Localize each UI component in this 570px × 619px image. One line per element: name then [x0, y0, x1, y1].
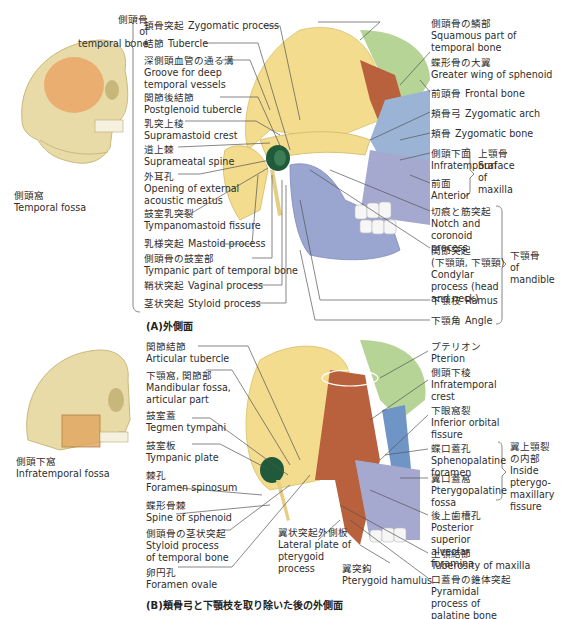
- group-en1: Inside: [510, 465, 554, 477]
- label-ramus: 下顎枝Ramus: [431, 295, 498, 307]
- group-jp1: 翼上顎裂: [510, 441, 554, 453]
- label-en: Zygomatic arch: [465, 108, 540, 119]
- label-jp: 蝶口蓋孔: [431, 443, 501, 455]
- label-en: Frontal bone: [465, 88, 525, 99]
- label-en: Mandibular fossa, articular part: [146, 382, 236, 406]
- label-jp: 関節結節: [146, 341, 229, 353]
- label-en: Postglenoid tubercle: [144, 104, 242, 116]
- label-jp: 蝶形骨の大翼: [431, 57, 552, 69]
- label-en: Tympanic plate: [146, 452, 219, 464]
- label-jp: 側頭骨の鱗部: [431, 18, 541, 30]
- label-en: Zygomatic process: [188, 20, 279, 31]
- label-jp: 乳様突起: [144, 238, 184, 249]
- label-jp: 道上棘: [144, 144, 234, 156]
- label-tympanic-plate: 鼓室板Tympanic plate: [146, 440, 219, 464]
- label-en: Spine of sphenoid: [146, 512, 232, 524]
- label-jp: 下顎枝: [431, 295, 461, 306]
- label-jp: 頬骨突起: [144, 20, 184, 31]
- label-jp: 翼口蓋窩: [431, 473, 501, 485]
- label-en: Greater wing of sphenoid: [431, 69, 552, 81]
- label-zygomatic-arch: 頬骨弓Zygomatic arch: [431, 108, 540, 120]
- skull-thumbnail-b: [27, 350, 130, 450]
- label-jp: 関節突起: [431, 245, 506, 257]
- label-jp2: (下顎頭, 下顎頸): [431, 257, 506, 269]
- label-tympanic-part: 側頭骨の鼓室部Tympanic part of temporal bone: [144, 253, 298, 277]
- label-en: Foramen spinosum: [146, 482, 237, 494]
- label-jp: 乳突上稜: [144, 118, 237, 130]
- label-en: Pterion: [431, 353, 481, 365]
- label-en: Supramastoid crest: [144, 130, 237, 142]
- label-tegmen-tympani: 鼓室蓋Tegmen tympani: [146, 410, 226, 434]
- label-supramastoid-crest: 乳突上稜Supramastoid crest: [144, 118, 237, 142]
- group-en3: maxillary: [510, 489, 554, 501]
- group-en1: Surface: [478, 160, 515, 172]
- caption-panel-a: (A)外側面: [146, 318, 193, 333]
- label-foramen-ovale: 卵円孔Foramen ovale: [146, 567, 217, 591]
- label-jp: 側頭窩: [14, 190, 86, 202]
- group-en1: of: [78, 26, 148, 38]
- label-en: Tympanic part of temporal bone: [144, 265, 298, 277]
- group-jp: 側頭骨: [78, 14, 148, 26]
- label-en: Tuberosity of maxilla: [431, 560, 530, 572]
- group-en2: mandible: [510, 274, 555, 286]
- label-jp: 前頭骨: [431, 88, 461, 99]
- label-tubercle: 結節Tubercle: [144, 38, 208, 50]
- label-en: Articular tubercle: [146, 353, 229, 365]
- label-postglenoid-tubercle: 関節後結節Postglenoid tubercle: [144, 92, 242, 116]
- label-jp: 側頭下稜: [431, 367, 501, 379]
- label-squamous-part: 側頭骨の鱗部Squamous part of temporal bone: [431, 18, 541, 54]
- label-jp: 棘孔: [146, 470, 237, 482]
- label-mandibular-fossa: 下顎窩, 関節部Mandibular fossa, articular part: [146, 370, 236, 406]
- group-en2: of: [478, 172, 515, 184]
- label-en: Tympanomastoid fissure: [144, 220, 261, 232]
- label-jp: 翼状突起外側板: [278, 527, 358, 539]
- label-articular-tubercle: 関節結節Articular tubercle: [146, 341, 229, 365]
- label-inferior-orbital-fissure: 下眼窩裂Inferior orbital fissure: [431, 405, 501, 441]
- label-jp: 側頭骨の茎状突起: [146, 528, 231, 540]
- label-jp: 外耳孔: [144, 171, 244, 183]
- label-en: Anterior: [431, 190, 470, 202]
- label-en: Foramen ovale: [146, 579, 217, 591]
- label-vaginal-process: 鞘状突起Vaginal process: [144, 280, 263, 292]
- label-jp: 下顎角: [431, 315, 461, 326]
- label-zygomatic-process: 頬骨突起Zygomatic process: [144, 20, 279, 32]
- label-en: Temporal fossa: [14, 202, 86, 214]
- group-jp2: の内部: [510, 453, 554, 465]
- label-jp: 下眼窩裂: [431, 405, 501, 417]
- label-en: Infratemporal crest: [431, 379, 501, 403]
- label-en: Ramus: [465, 295, 498, 306]
- skull-thumbnail-a: [22, 40, 128, 163]
- label-en: Pterygopalatine fossa: [431, 485, 501, 509]
- label-jp: 側頭下窩: [16, 456, 110, 468]
- label-en: Suprameatal spine: [144, 156, 234, 168]
- label-styloid-process-temporal: 側頭骨の茎状突起Styloid process of temporal bone: [146, 528, 231, 564]
- group-label-mandible: 下顎骨 of mandible: [510, 250, 555, 286]
- label-jp: 頬骨弓: [431, 108, 461, 119]
- label-en: Opening of external acoustic meatus: [144, 183, 244, 207]
- group-jp: 下顎骨: [510, 250, 555, 262]
- label-en: Inferior orbital fissure: [431, 417, 501, 441]
- label-jp: 翼突鈎: [342, 563, 432, 575]
- label-jp: 前面: [431, 178, 470, 190]
- label-en: Angle: [465, 315, 492, 326]
- label-jp: 蝶形骨棘: [146, 500, 232, 512]
- label-jp: 鼓室板: [146, 440, 219, 452]
- label-jp: 茎状突起: [144, 298, 184, 309]
- group-label-pterygomaxillary-fissure: 翼上顎裂 の内部 Inside pterygo- maxillary fissu…: [510, 441, 554, 513]
- group-label-maxilla: 上顎骨 Surface of maxilla: [478, 148, 515, 196]
- label-mastoid-process: 乳様突起Mastoid process: [144, 238, 265, 250]
- label-temporal-fossa: 側頭窩 Temporal fossa: [14, 190, 86, 214]
- label-infratemporal-fossa: 側頭下窩 Infratemporal fossa: [16, 456, 110, 480]
- label-jp: 上顎結節: [431, 548, 530, 560]
- group-en4: fissure: [510, 501, 554, 513]
- label-zygomatic-bone: 頬骨Zygomatic bone: [431, 128, 533, 140]
- label-tympanomastoid-fissure: 鼓室乳突裂Tympanomastoid fissure: [144, 208, 261, 232]
- label-en: Styloid process of temporal bone: [146, 540, 231, 564]
- label-jp: 側頭骨の鼓室部: [144, 253, 298, 265]
- label-jp: 鼓室蓋: [146, 410, 226, 422]
- caption-panel-b: (B)頬骨弓と下顎枝を取り除いた後の外側面: [146, 597, 343, 612]
- group-jp: 上顎骨: [478, 148, 515, 160]
- label-pyramidal-process: 口蓋骨の錐体突起Pyramidal process of palatine bo…: [431, 574, 516, 619]
- label-tuberosity-of-maxilla: 上顎結節Tuberosity of maxilla: [431, 548, 530, 572]
- label-infratemporal-crest: 側頭下稜Infratemporal crest: [431, 367, 501, 403]
